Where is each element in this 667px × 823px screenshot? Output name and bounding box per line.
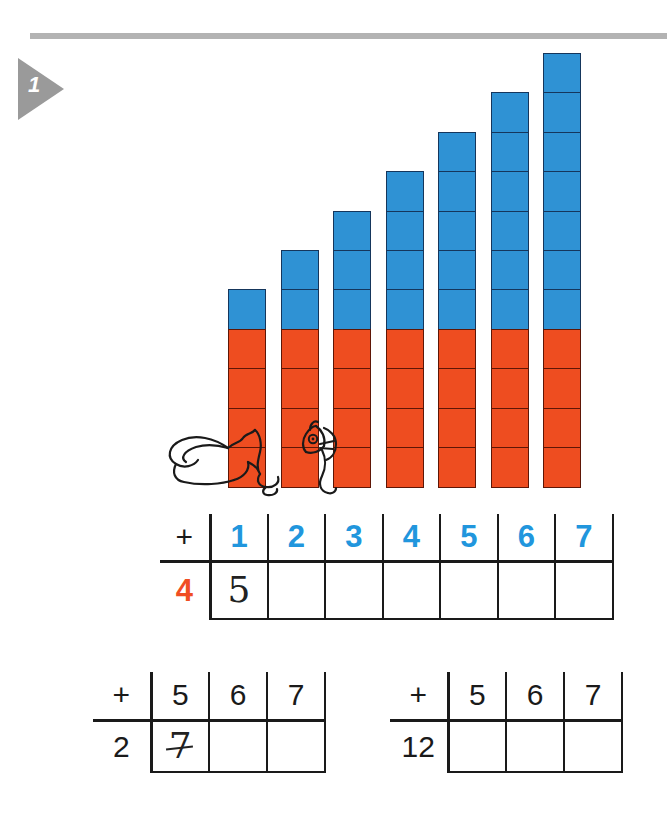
header-number: 7 [585, 678, 602, 711]
header-number: 2 [288, 519, 305, 554]
table-row: + 1 2 3 4 5 6 7 [160, 514, 613, 561]
plus-sign: + [112, 678, 130, 711]
blue-cube [281, 250, 319, 291]
header-cell-2: 6 [506, 672, 564, 720]
answer-value: 7 [169, 728, 192, 764]
red-cube [543, 329, 581, 370]
red-cube [281, 408, 319, 449]
table-row: + 5 6 7 [93, 672, 325, 720]
red-cube [386, 447, 424, 488]
blue-cube [543, 250, 581, 291]
table-row: 4 5 [160, 561, 613, 619]
red-cube [281, 447, 319, 488]
blue-cube [438, 171, 476, 212]
plus-sign-cell: + [390, 672, 448, 720]
cube-bar-4 [386, 173, 424, 488]
red-cube [386, 329, 424, 370]
header-number: 6 [527, 678, 544, 711]
blue-cube [386, 289, 424, 330]
red-cube [333, 368, 371, 409]
header-cell-5: 5 [440, 514, 498, 561]
answer-cell-1[interactable] [448, 720, 506, 772]
red-cube [228, 329, 266, 370]
red-cube [543, 368, 581, 409]
answer-cell-2[interactable] [506, 720, 564, 772]
blue-cube [281, 289, 319, 330]
header-number: 6 [230, 678, 247, 711]
blue-cube [491, 289, 529, 330]
table-row: 12 [390, 720, 622, 772]
red-cube [438, 329, 476, 370]
header-number: 6 [518, 519, 535, 554]
header-cell-1: 5 [448, 672, 506, 720]
exercise-number: 1 [23, 74, 45, 96]
blue-cube [333, 250, 371, 291]
left-operand: 2 [113, 730, 130, 763]
blue-cube [543, 289, 581, 330]
blue-cube [491, 132, 529, 173]
left-operand-cell: 12 [390, 720, 448, 772]
table-row: + 5 6 7 [390, 672, 622, 720]
answer-cell-3[interactable] [267, 720, 325, 772]
header-number: 1 [230, 519, 247, 554]
answer-cell-4[interactable] [383, 561, 441, 619]
answer-cell-2[interactable] [209, 720, 267, 772]
red-cube [491, 329, 529, 370]
blue-cube [491, 171, 529, 212]
answer-cell-3[interactable] [564, 720, 622, 772]
red-cube [543, 447, 581, 488]
red-cube [438, 408, 476, 449]
header-cell-1: 1 [210, 514, 268, 561]
red-cube [543, 408, 581, 449]
blue-cube [543, 53, 581, 94]
addition-table-3: + 5 6 7 12 [390, 672, 623, 773]
answer-cell-6[interactable] [498, 561, 556, 619]
blue-cube [491, 92, 529, 133]
blue-cube [438, 132, 476, 173]
red-cube [228, 368, 266, 409]
cube-bar-2 [281, 252, 319, 488]
blue-cube [491, 211, 529, 252]
left-operand-cell: 4 [160, 561, 210, 619]
cube-bar-7 [543, 55, 581, 488]
header-cell-2: 2 [268, 514, 326, 561]
header-number: 5 [469, 678, 486, 711]
header-cell-1: 5 [151, 672, 209, 720]
header-cell-3: 7 [564, 672, 622, 720]
cube-bar-1 [228, 291, 266, 488]
red-cube [491, 368, 529, 409]
red-cube [438, 368, 476, 409]
plus-sign: + [409, 678, 427, 711]
answer-cell-3[interactable] [325, 561, 383, 619]
header-cell-6: 6 [498, 514, 556, 561]
red-cube [281, 329, 319, 370]
answer-cell-7[interactable] [555, 561, 613, 619]
header-number: 7 [288, 678, 305, 711]
answer-cell-2[interactable] [268, 561, 326, 619]
answer-cell-5[interactable] [440, 561, 498, 619]
header-cell-2: 6 [209, 672, 267, 720]
blue-cube [543, 132, 581, 173]
red-cube [491, 447, 529, 488]
blue-cube [491, 250, 529, 291]
red-cube [228, 447, 266, 488]
header-number: 7 [575, 519, 592, 554]
red-cube [333, 408, 371, 449]
header-number: 4 [403, 519, 420, 554]
header-number: 5 [460, 519, 477, 554]
addition-table-2: + 5 6 7 2 7 [93, 672, 326, 773]
red-cube [228, 408, 266, 449]
header-cell-3: 7 [267, 672, 325, 720]
red-cube [386, 408, 424, 449]
red-cube [386, 368, 424, 409]
answer-cell-1[interactable]: 7 [151, 720, 209, 772]
exercise-number-marker: 1 [18, 58, 64, 120]
cube-bar-6 [491, 94, 529, 488]
table-row: 2 7 [93, 720, 325, 772]
header-number: 5 [172, 678, 189, 711]
answer-cell-1[interactable]: 5 [210, 561, 268, 619]
red-cube [491, 408, 529, 449]
cube-bar-3 [333, 212, 371, 488]
blue-cube [333, 211, 371, 252]
blue-cube [386, 211, 424, 252]
